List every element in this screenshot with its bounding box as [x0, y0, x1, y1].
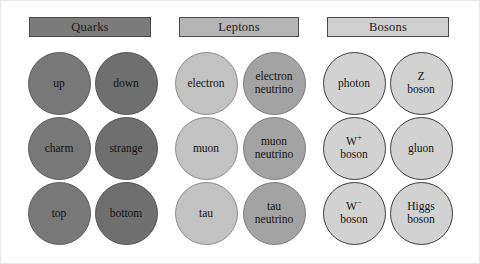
- particle-label: W−boson: [340, 200, 367, 226]
- group-header-label: Bosons: [369, 21, 407, 34]
- particle-muon-neutrino: muonneutrino: [243, 117, 306, 180]
- particle-label: up: [53, 77, 65, 90]
- particle-label: Higgsboson: [407, 200, 434, 226]
- group-header-label: Leptons: [218, 21, 260, 34]
- particle-gluon: gluon: [390, 117, 453, 180]
- particle-up: up: [28, 52, 91, 115]
- particle-label: electronneutrino: [255, 70, 293, 96]
- particle-label: gluon: [408, 142, 434, 155]
- particle-down: down: [95, 52, 158, 115]
- particle-label: tau: [199, 207, 213, 220]
- group-header-bosons: Bosons: [327, 17, 449, 37]
- particle-label: top: [52, 207, 67, 220]
- group-header-quarks: Quarks: [29, 17, 151, 37]
- particle-w-plus-boson: W+boson: [323, 117, 386, 180]
- particle-label: Zboson: [407, 70, 434, 96]
- particle-label: muon: [193, 142, 219, 155]
- group-header-label: Quarks: [71, 21, 108, 34]
- particle-tau-neutrino: tauneutrino: [243, 182, 306, 245]
- particle-higgs-boson: Higgsboson: [390, 182, 453, 245]
- particle-electron-neutrino: electronneutrino: [243, 52, 306, 115]
- particle-photon: photon: [323, 52, 386, 115]
- particle-tau: tau: [175, 182, 238, 245]
- particle-chart-figure: QuarksLeptonsBosons updownelectronelectr…: [0, 0, 480, 264]
- particle-label: W+boson: [340, 135, 367, 161]
- particle-z-boson: Zboson: [390, 52, 453, 115]
- particle-label: muonneutrino: [255, 135, 293, 161]
- particle-label: electron: [187, 77, 224, 90]
- particle-strange: strange: [95, 117, 158, 180]
- particle-label: strange: [109, 142, 142, 155]
- particle-label: charm: [45, 142, 74, 155]
- particle-charm: charm: [28, 117, 91, 180]
- particle-muon: muon: [175, 117, 238, 180]
- particle-bottom: bottom: [95, 182, 158, 245]
- group-header-leptons: Leptons: [179, 17, 299, 37]
- particle-label: photon: [338, 77, 370, 90]
- particle-label: bottom: [110, 207, 143, 220]
- particle-top: top: [28, 182, 91, 245]
- particle-electron: electron: [175, 52, 238, 115]
- particle-label: tauneutrino: [255, 200, 293, 226]
- particle-label: down: [113, 77, 139, 90]
- particle-w-minus-boson: W−boson: [323, 182, 386, 245]
